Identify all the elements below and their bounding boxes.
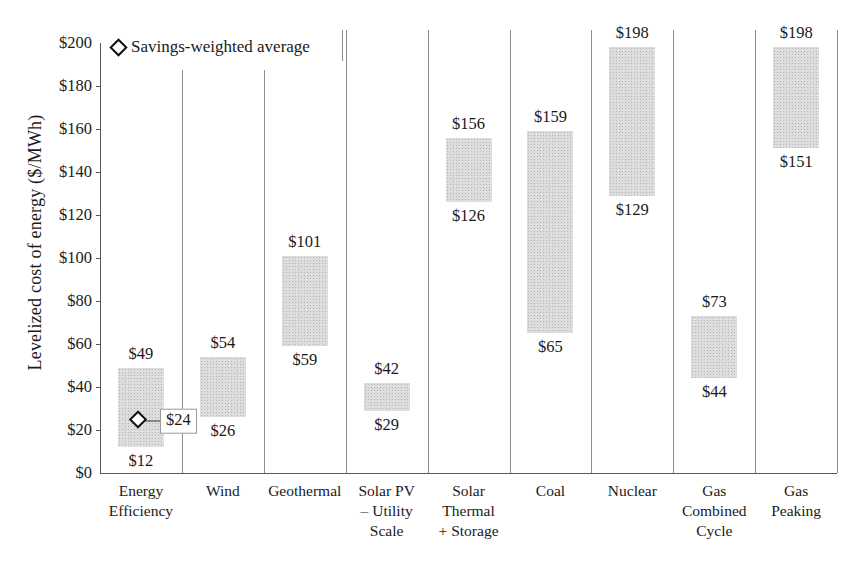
bar-low-label: $65: [538, 337, 563, 357]
y-tick-label: $80: [32, 291, 92, 311]
bar-low-label: $59: [292, 350, 317, 370]
bar-nuclear: [609, 47, 655, 195]
bar-high-label: $156: [452, 114, 485, 134]
category-separator: [346, 30, 347, 473]
bar-low-label: $26: [210, 421, 235, 441]
y-tick-label: $20: [32, 420, 92, 440]
bar-solar-pv-utility-scale: [364, 383, 410, 411]
category-label-line: Peaking: [748, 501, 844, 521]
bar-high-label: $198: [616, 23, 649, 43]
bar-low-label: $29: [374, 415, 399, 435]
bar-energy-efficiency: [118, 368, 164, 448]
savings-weighted-average-callout: $24: [160, 409, 197, 434]
y-tick-label: $120: [32, 205, 92, 225]
category-separator: [591, 30, 592, 473]
category-label-line: Thermal: [421, 501, 517, 521]
legend: Savings-weighted average: [112, 37, 310, 57]
bar-high-label: $159: [534, 107, 567, 127]
bar-low-label: $12: [129, 451, 154, 471]
category-separator: [673, 30, 674, 473]
category-separator: [837, 30, 838, 473]
category-label-gas-peaking: GasPeaking: [748, 481, 844, 521]
legend-box-right-edge: [342, 30, 343, 61]
y-tick-label: $40: [32, 377, 92, 397]
category-label-line: Efficiency: [93, 501, 189, 521]
y-tick-label: $60: [32, 334, 92, 354]
bar-low-label: $44: [702, 382, 727, 402]
y-tick-label: $0: [32, 463, 92, 483]
legend-label-savings-weighted-average: Savings-weighted average: [131, 37, 310, 57]
diamond-icon: [129, 411, 147, 429]
bar-geothermal: [282, 256, 328, 346]
y-tick-label: $180: [32, 76, 92, 96]
x-axis-line: [100, 473, 837, 474]
bar-low-label: $151: [780, 152, 813, 172]
savings-weighted-average-diamond-icon: [109, 38, 127, 56]
bar-gas-combined-cycle: [691, 316, 737, 378]
y-tick-label: $100: [32, 248, 92, 268]
bar-wind: [200, 357, 246, 417]
bar-high-label: $42: [374, 359, 399, 379]
levelized-cost-of-energy-chart: Levelized cost of energy ($/MWh) $0$20$4…: [0, 0, 865, 567]
bar-high-label: $101: [288, 232, 321, 252]
y-axis-line: [100, 43, 101, 474]
savings-weighted-average-marker: [131, 412, 144, 430]
bar-high-label: $198: [780, 23, 813, 43]
bar-low-label: $129: [616, 200, 649, 220]
y-tick-label: $160: [32, 119, 92, 139]
bar-solar-thermal-storage: [446, 138, 492, 203]
bar-high-label: $73: [702, 292, 727, 312]
category-label-line: + Storage: [421, 521, 517, 541]
category-separator: [755, 30, 756, 473]
category-label-line: Cycle: [666, 521, 762, 541]
y-tick-label: $140: [32, 162, 92, 182]
category-separator: [428, 30, 429, 473]
category-separator: [264, 70, 265, 473]
bar-low-label: $126: [452, 206, 485, 226]
category-label-line: Gas: [748, 481, 844, 501]
category-separator: [510, 30, 511, 473]
bar-gas-peaking: [773, 47, 819, 148]
y-tick-label: $200: [32, 33, 92, 53]
bar-coal: [527, 131, 573, 333]
bar-high-label: $54: [210, 333, 235, 353]
bar-high-label: $49: [129, 344, 154, 364]
